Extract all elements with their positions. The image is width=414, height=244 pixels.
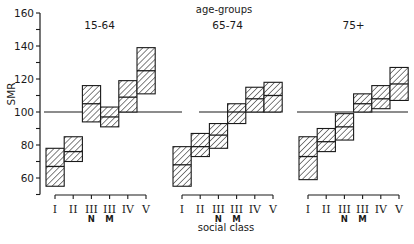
x-tick-label: IV <box>249 203 262 216</box>
smr-chart: 6080100120140160 SMR age-groups 15-64III… <box>0 0 414 244</box>
y-axis-label: SMR <box>5 82 17 105</box>
panels: 15-64IIIIIINIIIMIVV65-74IIIIIINIIIMIVV75… <box>44 19 408 224</box>
panel-65-74: 65-74IIIIIINIIIMIVV <box>173 19 282 224</box>
range-box <box>372 86 390 109</box>
range-box <box>209 124 227 149</box>
range-box <box>101 107 119 127</box>
x-tick-label: V <box>268 203 278 216</box>
x-tick-sublabel: M <box>358 214 366 224</box>
panel-label: 75+ <box>343 19 365 31</box>
x-axis-label: social class <box>198 222 255 233</box>
range-box <box>191 133 209 156</box>
x-tick-label: IV <box>375 203 388 216</box>
range-box <box>82 86 100 122</box>
y-tick-label: 160 <box>14 7 34 19</box>
panel-label: 15-64 <box>84 19 115 31</box>
x-tick-label: I <box>53 203 57 216</box>
range-box <box>228 104 246 124</box>
range-box <box>119 81 137 112</box>
range-box <box>64 137 82 162</box>
x-tick-label: II <box>322 203 331 216</box>
y-tick-label: 140 <box>14 40 34 52</box>
x-tick-label: V <box>394 203 404 216</box>
range-box <box>46 148 64 186</box>
x-tick-sublabel: N <box>88 214 95 224</box>
range-box <box>264 82 282 112</box>
x-tick-label: II <box>196 203 205 216</box>
range-box <box>246 87 264 112</box>
y-axis: 6080100120140160 <box>14 7 40 195</box>
panel-label: 65-74 <box>212 19 243 31</box>
range-box <box>137 48 155 94</box>
range-box <box>173 147 191 187</box>
range-box <box>299 137 317 180</box>
x-tick-sublabel: M <box>105 214 113 224</box>
panel-15-64: 15-64IIIIIINIIIMIVV <box>44 19 182 224</box>
range-box <box>317 129 335 152</box>
chart-title: age-groups <box>196 4 253 15</box>
y-tick-label: 80 <box>21 139 34 151</box>
x-tick-label: II <box>69 203 78 216</box>
panel-75+: 75+IIIIIINIIIMIVV <box>297 19 408 224</box>
y-tick-label: 60 <box>21 172 34 184</box>
x-tick-label: V <box>141 203 151 216</box>
range-box <box>354 94 372 112</box>
range-box <box>335 114 353 140</box>
x-tick-label: I <box>306 203 310 216</box>
x-tick-sublabel: N <box>341 214 348 224</box>
x-tick-label: IV <box>122 203 135 216</box>
x-tick-label: I <box>180 203 184 216</box>
y-tick-label: 100 <box>14 106 34 118</box>
range-box <box>390 67 408 100</box>
